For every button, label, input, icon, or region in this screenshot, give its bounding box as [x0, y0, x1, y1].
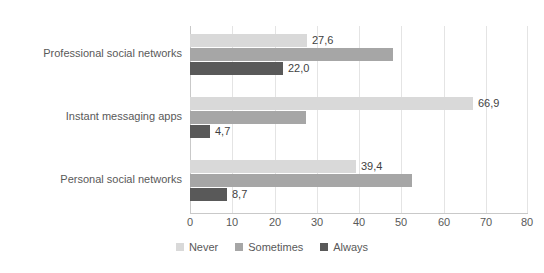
bar-value-label: 4,7	[210, 125, 230, 138]
bar-chart: Professional social networks Instant mes…	[0, 0, 544, 273]
category-label: Professional social networks	[0, 47, 182, 59]
gridline	[444, 26, 445, 214]
legend-label: Never	[189, 241, 218, 253]
tick-label: 80	[521, 216, 533, 228]
bar-value-label: 8,7	[227, 188, 247, 201]
tick-label: 50	[395, 216, 407, 228]
legend-swatch-icon	[176, 243, 184, 251]
bar-sometimes	[190, 174, 412, 187]
tick-label: 60	[438, 216, 450, 228]
category-axis: Professional social networks Instant mes…	[0, 26, 190, 214]
bar-never	[190, 34, 307, 47]
gridline	[486, 26, 487, 214]
tick-label: 70	[480, 216, 492, 228]
bar-never	[190, 160, 356, 173]
bar-sometimes	[190, 48, 393, 61]
plot-area: 27,6 22,0 66,9 4,7 39,4 8,7	[190, 26, 528, 214]
bar-sometimes	[190, 111, 306, 124]
category-label: Instant messaging apps	[0, 110, 182, 122]
tick-label: 0	[187, 216, 193, 228]
legend-item-always[interactable]: Always	[320, 241, 368, 253]
tick-label: 40	[353, 216, 365, 228]
bar-always	[190, 62, 283, 75]
legend-label: Sometimes	[248, 241, 303, 253]
bar-value-label: 66,9	[473, 97, 499, 110]
category-axis-line	[190, 213, 528, 214]
legend-label: Always	[333, 241, 368, 253]
legend-item-sometimes[interactable]: Sometimes	[235, 241, 303, 253]
bar-always	[190, 188, 227, 201]
legend-swatch-icon	[320, 243, 328, 251]
bar-always	[190, 125, 210, 138]
tick-label: 10	[226, 216, 238, 228]
bar-value-label: 22,0	[283, 62, 309, 75]
tick-label: 30	[311, 216, 323, 228]
bar-never	[190, 97, 473, 110]
bar-value-label: 39,4	[356, 160, 382, 173]
legend-swatch-icon	[235, 243, 243, 251]
chart-legend: Never Sometimes Always	[0, 241, 544, 253]
category-label: Personal social networks	[0, 173, 182, 185]
gridline	[527, 26, 528, 214]
value-axis-ticks: 0 10 20 30 40 50 60 70 80	[190, 216, 528, 232]
legend-item-never[interactable]: Never	[176, 241, 218, 253]
chart-title	[8, 0, 536, 5]
bar-value-label: 27,6	[307, 34, 333, 47]
tick-label: 20	[269, 216, 281, 228]
